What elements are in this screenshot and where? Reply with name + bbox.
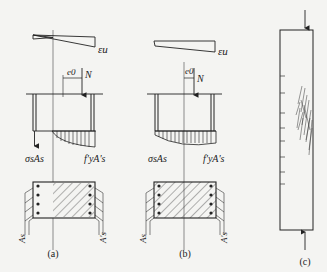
caption-c: (c) bbox=[299, 256, 310, 268]
eccentric-compression-diagram: εu e0 N σsAs f'yA's bbox=[0, 0, 327, 272]
axial-label: N bbox=[84, 69, 93, 80]
panel-b: εu e0 N σsAs f'yA's bbox=[138, 41, 229, 260]
eccentricity-label: e0 bbox=[67, 67, 76, 77]
svg-text:εu: εu bbox=[218, 45, 228, 57]
panel-c: (c) bbox=[280, 10, 313, 268]
compression-steel-label: f'yA's bbox=[84, 153, 106, 164]
tension-steel-label: σsAs bbox=[25, 153, 44, 164]
tension-steel-label: σsAs bbox=[148, 153, 167, 164]
section-left-label: As bbox=[138, 234, 148, 244]
panel-a: εu e0 N σsAs f'yA's bbox=[17, 30, 108, 260]
compression-steel-label: f'yA's bbox=[203, 153, 225, 164]
strain-label: εu bbox=[98, 43, 108, 55]
compression-zone-hatch bbox=[154, 182, 216, 218]
section-right-label: A's bbox=[98, 232, 108, 244]
crushing-cracks bbox=[296, 86, 312, 155]
compression-zone-hatch bbox=[53, 183, 94, 217]
strain-diagram bbox=[154, 41, 215, 52]
strain-diagram bbox=[33, 35, 95, 47]
eccentricity-label: e0 bbox=[185, 66, 194, 76]
section-left-label: As bbox=[17, 234, 27, 244]
axial-label: N bbox=[196, 73, 205, 84]
section-right-label: A's bbox=[219, 232, 229, 244]
caption-b: (b) bbox=[179, 248, 191, 260]
stress-block bbox=[52, 131, 95, 147]
caption-a: (a) bbox=[47, 248, 58, 260]
